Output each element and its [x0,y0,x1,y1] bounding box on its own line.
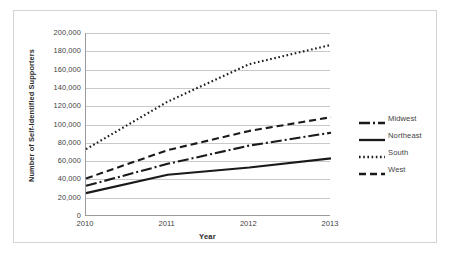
y-axis-tick-label: 140,000 [21,84,81,92]
gridline [86,216,330,217]
y-axis-tick-label: 40,000 [21,175,81,183]
legend-swatch-south [359,148,385,158]
legend-swatch-west [359,165,385,175]
x-axis-tick-label: 2011 [142,219,192,228]
chart-frame: Number of Self-Identified Supporters 200… [13,10,437,243]
series-line-south [86,45,331,149]
y-axis-tick-label: 120,000 [21,102,81,110]
legend-item-northeast[interactable]: Northeast [359,128,445,143]
y-axis-tick-label: 180,000 [21,47,81,55]
legend-item-south[interactable]: South [359,145,445,160]
y-axis-tick-labels: 200,000180,000160,000140,000120,000100,0… [19,33,81,216]
series-line-midwest [86,133,331,186]
x-axis-tick-label: 2013 [305,219,355,228]
series-layer [86,33,331,216]
y-axis-tick-label: 100,000 [21,121,81,129]
plot-area [85,33,330,216]
legend-label: Midwest [388,114,417,123]
x-axis-tick-label: 2010 [60,219,110,228]
chart-legend: MidwestNortheastSouthWest [359,111,445,179]
x-axis-tick-labels: 2010201120122013 [85,219,330,233]
legend-label: South [388,148,408,157]
y-axis-tick-label: 20,000 [21,194,81,202]
x-axis-tick-label: 2012 [223,219,273,228]
legend-label: West [388,165,406,174]
legend-item-midwest[interactable]: Midwest [359,111,445,126]
legend-label: Northeast [388,131,422,140]
x-axis-title: Year [85,232,330,241]
y-axis-tick-label: 200,000 [21,29,81,37]
chart-root: Number of Self-Identified Supporters 200… [0,0,453,269]
legend-swatch-northeast [359,131,385,141]
y-axis-tick-label: 80,000 [21,139,81,147]
legend-item-west[interactable]: West [359,162,445,177]
y-axis-tick-label: 60,000 [21,157,81,165]
y-axis-tick-label: 160,000 [21,66,81,74]
legend-swatch-midwest [359,114,385,124]
series-line-west [86,117,331,178]
